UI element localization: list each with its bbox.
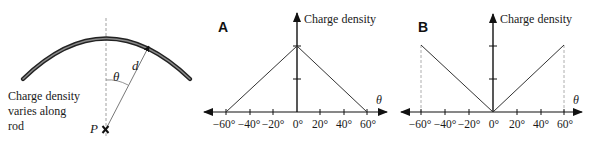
caption-line-3: rod — [8, 119, 24, 133]
caption-line-2: varies along — [8, 104, 66, 118]
panel-b-x-axis-title: θ — [573, 93, 579, 107]
figure-canvas: θ d P Charge density varies along rod A — [0, 0, 592, 144]
panel-a-x-tick-label: 20° — [312, 118, 329, 130]
caption-line-1: Charge density — [8, 89, 80, 103]
panel-a-x-tick-label: −40° — [238, 118, 261, 130]
panel-b-x-tick-label: 0° — [489, 118, 500, 130]
panel-a-chart: A Charge density θ −60° −40° −20° 0° 20° — [204, 12, 387, 130]
panel-a-x-tick-label: 40° — [336, 118, 353, 130]
panel-b-label: B — [418, 19, 428, 35]
panel-b-y-axis-title: Charge density — [500, 12, 572, 26]
panel-a-x-tick-label: 60° — [360, 118, 377, 130]
panel-b-x-tick-label: 40° — [533, 118, 550, 130]
panel-b-x-tick-label: 60° — [557, 118, 574, 130]
panel-a-x-axis-title: θ — [376, 93, 382, 107]
panel-a-x-tick-label: 0° — [293, 118, 304, 130]
panel-a-x-tick-label: −60° — [213, 118, 236, 130]
panel-b-x-tick-label: −40° — [434, 118, 457, 130]
panel-a-y-axis-title: Charge density — [304, 12, 376, 26]
panel-b-x-tick-label: −20° — [458, 118, 481, 130]
panel-a-x-tick-label: −20° — [262, 118, 285, 130]
rod-diagram: θ d P Charge density varies along rod — [8, 18, 190, 138]
point-label: P — [89, 121, 98, 136]
point-p-marker — [103, 126, 109, 133]
panel-b-chart: B Charge density θ −60° −40° −20° — [401, 12, 582, 130]
distance-label: d — [132, 58, 139, 73]
panel-b-x-tick-label: −60° — [409, 118, 432, 130]
angle-label: θ — [113, 69, 120, 84]
panel-b-x-tick-label: 20° — [509, 118, 526, 130]
panel-a-label: A — [218, 19, 228, 35]
distance-line — [106, 46, 149, 129]
